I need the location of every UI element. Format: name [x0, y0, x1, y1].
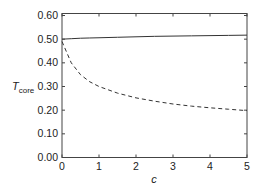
y-tick-label: 0.40	[38, 56, 59, 68]
x-tick-label: 1	[96, 160, 102, 172]
y-tick-label: 0.60	[38, 9, 59, 21]
y-axis-label-subscript: core	[19, 86, 35, 95]
x-tick-label: 3	[170, 160, 176, 172]
x-tick-label: 4	[207, 160, 213, 172]
plot-area	[62, 14, 247, 158]
y-tick-label: 0.50	[38, 33, 59, 45]
series-dashed-line	[62, 42, 247, 111]
y-tick-label: 0.10	[38, 127, 59, 139]
series-solid-line	[62, 35, 247, 39]
x-tick-label: 5	[244, 160, 250, 172]
y-tick-label: 0.00	[38, 151, 59, 163]
x-tick-label: 2	[133, 160, 139, 172]
y-axis-label: Tcore	[12, 80, 35, 95]
y-tick-label: 0.20	[38, 104, 59, 116]
x-tick-label: 0	[59, 160, 65, 172]
line-chart: 0.000.100.200.300.400.500.60 012345 Tcor…	[0, 0, 261, 186]
y-tick-label: 0.30	[38, 80, 59, 92]
y-axis: 0.000.100.200.300.400.500.60	[38, 9, 247, 163]
x-axis-label: c	[151, 173, 157, 185]
x-axis: 012345	[59, 14, 250, 172]
